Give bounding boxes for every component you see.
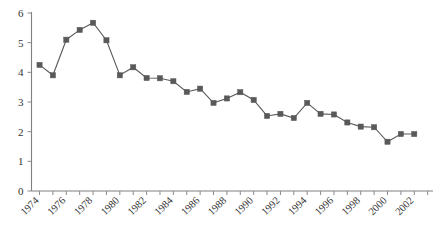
data-point-marker <box>291 115 296 120</box>
x-tick-label: 1992 <box>259 195 282 218</box>
chart-canvas: 0123456 19741976197819801982198419861988… <box>0 0 445 237</box>
data-point-marker <box>398 131 403 136</box>
data-point-marker <box>50 73 55 78</box>
data-point-marker <box>37 62 42 67</box>
data-point-marker <box>331 112 336 117</box>
x-tick-label: 1994 <box>286 194 309 217</box>
x-tick-label: 1988 <box>206 195 229 218</box>
y-axis <box>28 12 32 191</box>
y-tick-label: 4 <box>18 66 24 78</box>
x-tick-label: 1974 <box>18 194 41 217</box>
y-tick-label: 5 <box>18 37 24 49</box>
x-tick-label: 1980 <box>99 195 122 218</box>
y-tick-label: 3 <box>18 96 24 108</box>
data-point-marker <box>385 139 390 144</box>
x-axis <box>32 191 434 195</box>
data-point-marker <box>372 125 377 130</box>
x-tick-label: 1976 <box>45 195 68 218</box>
data-point-marker <box>117 73 122 78</box>
y-tick-label: 1 <box>18 155 24 167</box>
data-point-marker <box>184 89 189 94</box>
x-tick-label: 1998 <box>340 195 363 218</box>
x-tick-label: 1996 <box>313 195 336 218</box>
data-point-marker <box>224 96 229 101</box>
data-point-marker <box>264 113 269 118</box>
data-point-marker <box>171 79 176 84</box>
data-point-marker <box>144 75 149 80</box>
data-point-marker <box>211 100 216 105</box>
x-tick-label: 1978 <box>72 195 95 218</box>
data-point-marker <box>157 76 162 81</box>
y-tick-label: 0 <box>18 185 24 197</box>
data-point-marker <box>90 20 95 25</box>
data-point-marker <box>238 90 243 95</box>
data-point-marker <box>412 131 417 136</box>
data-point-marker <box>358 124 363 129</box>
data-series <box>37 20 417 144</box>
y-tick-label: 2 <box>18 126 24 138</box>
data-point-marker <box>318 111 323 116</box>
x-tick-label: 1990 <box>232 195 255 218</box>
data-point-marker <box>131 65 136 70</box>
x-tick-labels: 1974197619781980198219841986198819901992… <box>18 194 415 217</box>
data-point-marker <box>64 37 69 42</box>
x-tick-label: 2000 <box>366 195 389 218</box>
data-point-marker <box>198 86 203 91</box>
data-point-marker <box>77 27 82 32</box>
data-point-marker <box>305 100 310 105</box>
x-tick-label: 2002 <box>393 195 416 218</box>
line-chart: 0123456 19741976197819801982198419861988… <box>0 0 445 237</box>
x-tick-label: 1986 <box>179 195 202 218</box>
x-tick-label: 1982 <box>125 195 148 218</box>
data-point-marker <box>104 38 109 43</box>
data-point-marker <box>251 97 256 102</box>
x-tick-label: 1984 <box>152 194 175 217</box>
data-point-marker <box>278 111 283 116</box>
y-tick-labels: 0123456 <box>18 7 24 197</box>
data-point-marker <box>345 120 350 125</box>
y-tick-label: 6 <box>18 7 24 19</box>
